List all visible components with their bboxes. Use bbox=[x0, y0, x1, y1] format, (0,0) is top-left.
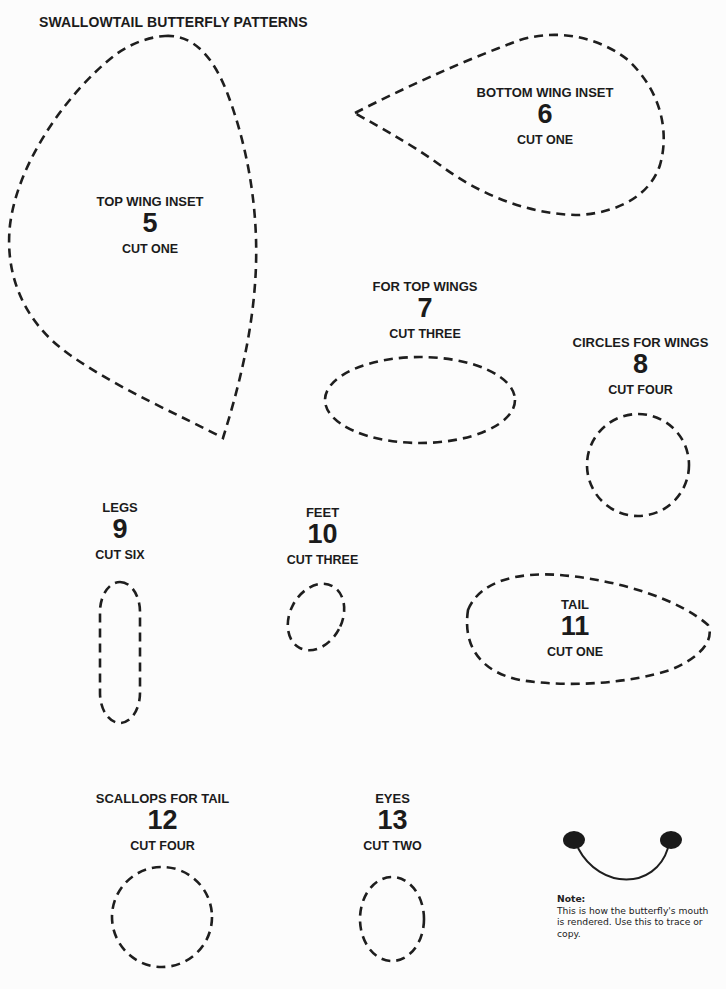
pattern-cut: CUT TWO bbox=[345, 840, 440, 853]
pattern-name: FOR TOP WINGS bbox=[350, 280, 500, 293]
pattern-cut: CUT THREE bbox=[265, 554, 380, 567]
pattern-number: 5 bbox=[70, 210, 230, 237]
pattern-name: TOP WING INSET bbox=[70, 195, 230, 208]
pattern-label-5: TOP WING INSET 5 CUT ONE bbox=[70, 195, 230, 256]
pattern-label-13: EYES 13 CUT TWO bbox=[345, 792, 440, 853]
top-wings-piece-outline bbox=[325, 357, 515, 443]
page-title: SWALLOWTAIL BUTTERFLY PATTERNS bbox=[39, 13, 308, 30]
foot-outline bbox=[277, 574, 356, 660]
pattern-number: 12 bbox=[75, 807, 250, 834]
pattern-number: 6 bbox=[460, 101, 630, 128]
pattern-name: CIRCLES FOR WINGS bbox=[558, 336, 723, 349]
pattern-cut: CUT ONE bbox=[70, 243, 230, 256]
leg-outline bbox=[100, 582, 140, 723]
pattern-name: FEET bbox=[265, 506, 380, 519]
pattern-number: 9 bbox=[70, 516, 170, 543]
pattern-cut: CUT ONE bbox=[460, 134, 630, 147]
pattern-label-9: LEGS 9 CUT SIX bbox=[70, 501, 170, 562]
pattern-label-7: FOR TOP WINGS 7 CUT THREE bbox=[350, 280, 500, 341]
mouth-illustration bbox=[563, 831, 682, 880]
mouth-curve bbox=[578, 848, 668, 880]
eye-outline bbox=[360, 877, 424, 961]
pattern-name: LEGS bbox=[70, 501, 170, 514]
mouth-note: Note: This is how the butterfly's mouth … bbox=[557, 893, 717, 939]
note-text: This is how the butterfly's mouth is ren… bbox=[557, 905, 708, 939]
pattern-name: SCALLOPS FOR TAIL bbox=[75, 792, 250, 805]
note-title: Note: bbox=[557, 893, 717, 905]
pattern-cut: CUT FOUR bbox=[75, 840, 250, 853]
pattern-label-6: BOTTOM WING INSET 6 CUT ONE bbox=[460, 86, 630, 147]
pattern-label-10: FEET 10 CUT THREE bbox=[265, 506, 380, 567]
pattern-cut: CUT ONE bbox=[520, 646, 630, 659]
pattern-cut: CUT THREE bbox=[350, 328, 500, 341]
tail-scallop-outline bbox=[112, 867, 212, 967]
wing-circle-outline bbox=[587, 414, 689, 516]
pattern-label-12: SCALLOPS FOR TAIL 12 CUT FOUR bbox=[75, 792, 250, 853]
pattern-number: 10 bbox=[265, 521, 380, 548]
pattern-number: 7 bbox=[350, 295, 500, 322]
mouth-left-dot bbox=[563, 831, 585, 849]
mouth-right-dot bbox=[660, 831, 682, 849]
pattern-label-11: TAIL 11 CUT ONE bbox=[520, 598, 630, 659]
pattern-name: TAIL bbox=[520, 598, 630, 611]
pattern-number: 11 bbox=[520, 613, 630, 640]
pattern-number: 8 bbox=[558, 351, 723, 378]
pattern-cut: CUT SIX bbox=[70, 549, 170, 562]
pattern-number: 13 bbox=[345, 807, 440, 834]
pattern-label-8: CIRCLES FOR WINGS 8 CUT FOUR bbox=[558, 336, 723, 397]
pattern-cut: CUT FOUR bbox=[558, 384, 723, 397]
pattern-name: EYES bbox=[345, 792, 440, 805]
pattern-name: BOTTOM WING INSET bbox=[460, 86, 630, 99]
